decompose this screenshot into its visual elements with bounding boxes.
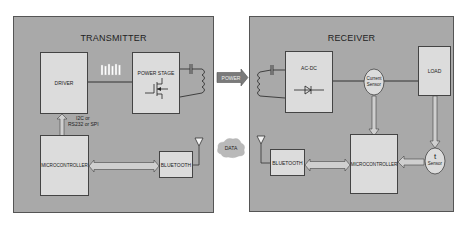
load-block: LOAD (418, 46, 451, 96)
load-label: LOAD (428, 68, 442, 74)
load-temp-arrow (429, 96, 441, 148)
rx-bluetooth-mcu-arrow (305, 158, 350, 172)
receiver-microcontroller-block: MICROCONTROLLER (350, 134, 398, 194)
receiver-bluetooth-block: BLUETOOTH (270, 149, 305, 176)
current-sensor-arrow (368, 96, 380, 136)
temperature-symbol: t (424, 152, 446, 161)
temperature-sensor-text: Sensor (424, 161, 446, 167)
temp-mcu-arrow (398, 156, 424, 168)
receiver-bluetooth-label: BLUETOOTH (272, 160, 302, 166)
receiver-antenna-icon (256, 135, 270, 165)
current-sensor-line2: Sensor (363, 82, 385, 88)
temperature-sensor-label: t Sensor (424, 152, 446, 167)
receiver-microcontroller-label: MICROCONTROLLER (351, 162, 398, 167)
current-sensor-label: Current Sensor (363, 76, 385, 88)
